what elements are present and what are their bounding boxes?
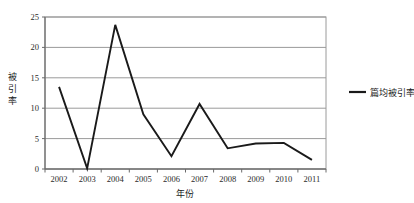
x-tick-label-2011: 2011 [304, 174, 321, 184]
plot-area-border [45, 17, 326, 169]
y-axis-title-char-0: 被 [8, 71, 17, 82]
y-tick-label-5: 5 [35, 134, 39, 144]
y-axis-title: 被 引 率 [8, 71, 17, 106]
x-tick-label-2009: 2009 [247, 174, 264, 184]
x-tick-label-2010: 2010 [275, 174, 292, 184]
y-axis-title-char-1: 引 [8, 84, 17, 94]
y-axis-title-char-2: 率 [8, 95, 17, 106]
x-tick-label-2003: 2003 [79, 174, 96, 184]
legend-label-cited-rate: 篇均被引率 [370, 87, 414, 98]
y-tick-label-25: 25 [31, 12, 40, 22]
x-tick-label-2006: 2006 [163, 174, 180, 184]
y-tick-label-15: 15 [31, 73, 40, 83]
chart-container: 0 5 10 15 20 25 被 引 率 [0, 0, 414, 203]
x-tick-label-2008: 2008 [219, 174, 236, 184]
x-axis-title: 年份 [176, 188, 194, 199]
y-tick-label-10: 10 [31, 103, 40, 113]
x-tick-label-2002: 2002 [51, 174, 68, 184]
y-tick-label-20: 20 [31, 42, 40, 52]
x-tick-label-2005: 2005 [135, 174, 152, 184]
plot-area [45, 17, 326, 169]
x-tick-label-2004: 2004 [107, 174, 125, 184]
x-tick-label-2007: 2007 [191, 174, 208, 184]
y-tick-label-0: 0 [35, 164, 39, 174]
cited-rate-line-chart: 0 5 10 15 20 25 被 引 率 [0, 0, 414, 203]
